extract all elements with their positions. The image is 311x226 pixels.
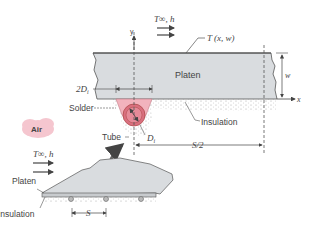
label-platen-small: Platen — [12, 176, 36, 186]
heat-transfer-diagram: T∞, h T (x, w) y x Platen w 2Di Solder I… — [0, 0, 311, 226]
flow-arrows-left — [33, 163, 53, 172]
label-x-axis: x — [296, 95, 301, 104]
label-t-inf-h-top: T∞, h — [154, 14, 175, 24]
label-insulation-small: Insulation — [0, 209, 35, 219]
label-platen-main: Platen — [175, 70, 201, 80]
label-insulation-main: Insulation — [201, 117, 238, 127]
label-y-axis: y — [130, 28, 134, 36]
flow-arrows-top — [157, 28, 174, 35]
small-platen — [42, 158, 173, 202]
label-di: Di — [146, 133, 156, 144]
label-t-inf-h-left: T∞, h — [33, 149, 54, 159]
label-solder: Solder — [69, 103, 94, 113]
label-2di: 2Di — [76, 84, 89, 95]
label-t-xw: T (x, w) — [207, 33, 235, 43]
label-s: S — [86, 208, 91, 218]
label-air: Air — [31, 125, 42, 134]
label-tube: Tube — [102, 132, 121, 142]
label-s-half: S/2 — [192, 140, 204, 150]
label-w: w — [285, 71, 291, 80]
